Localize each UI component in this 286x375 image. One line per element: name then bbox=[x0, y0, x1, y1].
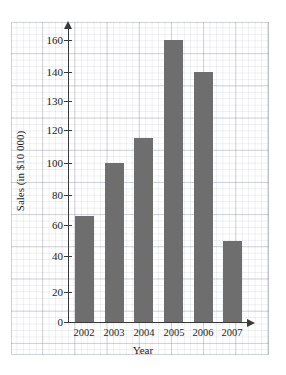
y-axis-tick bbox=[64, 101, 72, 102]
bar-2006 bbox=[194, 72, 213, 322]
x-axis-tick-label: 2004 bbox=[127, 327, 161, 338]
y-axis-title: Sales (in $10 000) bbox=[14, 91, 26, 251]
y-axis-tick bbox=[64, 322, 72, 323]
y-axis-tick-label: 160 bbox=[47, 35, 64, 46]
x-axis-tick-label: 2002 bbox=[67, 327, 101, 338]
y-axis-tick bbox=[64, 40, 72, 41]
y-axis-tick bbox=[64, 225, 72, 226]
y-axis-tick-label: 120 bbox=[47, 125, 64, 136]
x-axis-title: Year bbox=[0, 344, 286, 356]
y-axis-tick-label: 140 bbox=[47, 67, 64, 78]
x-axis-line bbox=[68, 322, 248, 323]
bar-chart-figure: 0 20 40 60 80 100 120 130 140 160 2002 2… bbox=[0, 0, 286, 375]
bar-2005 bbox=[164, 40, 183, 322]
y-axis-tick-label: 60 bbox=[52, 220, 63, 231]
y-axis-tick bbox=[64, 72, 72, 73]
y-axis-tick-label: 80 bbox=[52, 190, 63, 201]
y-axis-tick bbox=[64, 195, 72, 196]
y-axis-tick-label: 0 bbox=[58, 317, 64, 328]
y-axis-tick bbox=[64, 130, 72, 131]
y-axis-tick-label: 100 bbox=[47, 158, 64, 169]
bar-2007 bbox=[223, 241, 242, 323]
y-axis-tick bbox=[64, 163, 72, 164]
y-axis-tick-label: 20 bbox=[52, 287, 63, 298]
bar-2002 bbox=[75, 216, 94, 322]
x-axis-tick-label: 2003 bbox=[97, 327, 131, 338]
bar-2003 bbox=[105, 163, 124, 322]
x-axis-arrow-icon bbox=[247, 319, 255, 327]
y-axis-tick bbox=[64, 256, 72, 257]
y-axis-tick-label: 40 bbox=[52, 251, 63, 262]
bar-2004 bbox=[134, 138, 153, 322]
y-axis-tick bbox=[64, 292, 72, 293]
y-axis-arrow-icon bbox=[64, 21, 72, 29]
x-axis-tick-label: 2007 bbox=[215, 327, 249, 338]
y-axis-tick-label: 130 bbox=[47, 96, 64, 107]
